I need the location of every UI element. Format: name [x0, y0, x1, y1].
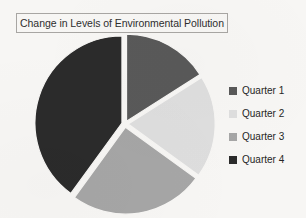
pie-chart-figure: Change in Levels of Environmental Pollut…: [0, 0, 306, 218]
legend-item-label: Quarter 3: [242, 131, 284, 142]
legend-item-label: Quarter 1: [242, 85, 284, 96]
legend-item-quarter-4[interactable]: Quarter 4: [229, 151, 303, 168]
legend-swatch-icon: [229, 110, 237, 118]
chart-title-box: Change in Levels of Environmental Pollut…: [16, 13, 228, 33]
legend-item-quarter-2[interactable]: Quarter 2: [229, 105, 303, 122]
legend-swatch-icon: [229, 156, 237, 164]
pie-plot-area: [26, 33, 226, 218]
legend-item-label: Quarter 2: [242, 108, 284, 119]
legend-item-quarter-3[interactable]: Quarter 3: [229, 128, 303, 145]
legend-item-quarter-1[interactable]: Quarter 1: [229, 82, 303, 99]
chart-legend: Quarter 1 Quarter 2 Quarter 3 Quarter 4: [229, 82, 303, 174]
pie-slice-group: [35, 34, 215, 214]
legend-swatch-icon: [229, 87, 237, 95]
legend-item-label: Quarter 4: [242, 154, 284, 165]
legend-swatch-icon: [229, 133, 237, 141]
pie-svg: [26, 33, 226, 218]
page-title: Change in Levels of Environmental Pollut…: [20, 18, 224, 29]
